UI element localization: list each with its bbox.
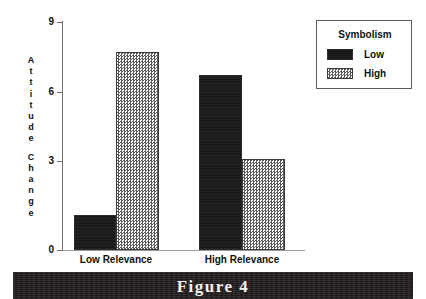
y-axis-title: A t t i t u d e C h a n g e [24,55,38,219]
y-axis-title-letter: h [24,163,38,174]
y-tick-mark-9 [57,22,63,23]
bar-low-relevance-high-symbolism[interactable] [116,52,159,250]
y-axis-title-letter: e [24,133,38,144]
y-axis-title-letter: n [24,185,38,196]
y-axis-title-letter: t [24,66,38,77]
y-axis-title-letter: t [24,100,38,111]
figure-caption-text: Figure 4 [13,277,413,296]
chart-legend: Symbolism Low High [316,20,412,89]
y-axis-title-letter: i [24,89,38,100]
figure-container: 9 6 3 0 A t t i t u d e C h a n g e Low [0,0,426,299]
y-axis-title-letter: C [24,152,38,163]
y-axis-title-letter: d [24,122,38,133]
y-axis-title-letter: g [24,196,38,207]
legend-swatch-high-icon [327,68,353,79]
y-axis-title-letter: e [24,208,38,219]
y-axis-title-letter: A [24,55,38,66]
y-axis-title-letter: a [24,174,38,185]
y-axis-title-letter: u [24,111,38,122]
bar-low-relevance-low-symbolism[interactable] [74,215,116,250]
y-tick-label-0: 0 [34,245,54,255]
figure-caption-band: Figure 4 [13,272,413,299]
y-axis-line [62,21,63,251]
x-tick-label-low-relevance: Low Relevance [56,254,176,266]
y-axis-title-letter: t [24,77,38,88]
y-axis-title-space [24,145,38,152]
bar-high-relevance-low-symbolism[interactable] [199,75,242,250]
y-tick-mark-3 [57,161,63,162]
legend-label-high: High [364,68,386,79]
legend-item-low[interactable]: Low [327,47,407,61]
legend-item-high[interactable]: High [327,66,407,80]
y-tick-mark-6 [57,92,63,93]
x-axis-line [62,250,305,251]
legend-label-low: Low [364,49,384,60]
y-tick-label-9: 9 [34,17,54,27]
y-tick-mark-0 [57,250,63,251]
legend-swatch-low-icon [327,49,353,60]
legend-title: Symbolism [317,29,413,40]
bar-high-relevance-high-symbolism[interactable] [242,159,285,250]
chart-plot-area: 9 6 3 0 A t t i t u d e C h a n g e Low [0,0,426,265]
x-tick-label-high-relevance: High Relevance [182,254,302,266]
